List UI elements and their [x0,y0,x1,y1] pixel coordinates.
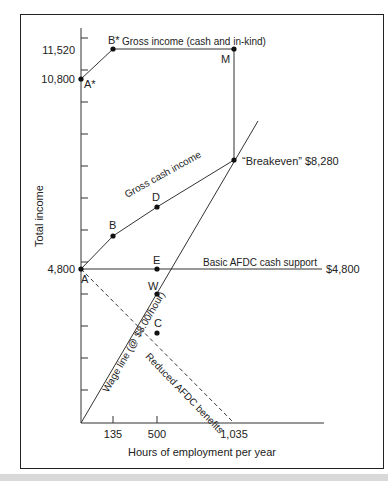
wage-line-label: Wage line (@ $8.00/hour) [100,290,167,394]
label-b: B [109,219,116,231]
y-ticks [81,38,88,390]
point-a [78,266,83,271]
label-m: M [221,53,230,65]
label-c: C [154,317,162,329]
x-tick-1035: 1,035 [220,428,248,440]
gross-income-label: Gross income (cash and in-kind) [122,36,266,47]
x-tick-135: 135 [104,428,122,440]
income-chart: 11,520 10,800 4,800 135 500 1,035 Hours … [0,0,388,481]
point-b [110,233,115,238]
y-tick-10800: 10,800 [41,73,75,85]
point-breakeven [231,157,236,162]
label-b-star: B* [108,34,120,46]
label-a-star: A* [84,78,96,90]
point-a-star [78,76,83,81]
x-axis-title: Hours of employment per year [128,446,276,458]
point-d [154,204,159,209]
point-m [231,46,236,51]
gross-cash-income-label: Gross cash income [123,148,204,199]
point-e [154,266,159,271]
x-ticks [113,416,157,423]
label-a: A [81,273,89,285]
label-e: E [153,254,160,266]
y-tick-4800: 4,800 [47,263,75,275]
point-c [154,330,159,335]
y-axis-title: Total income [33,185,45,247]
label-d: D [152,191,160,203]
breakeven-label: “Breakeven” $8,280 [242,155,339,167]
point-b-star [110,46,115,51]
x-tick-500: 500 [148,428,166,440]
afdc-value-label: $4,800 [326,263,360,275]
afdc-support-label: Basic AFDC cash support [203,257,317,268]
y-tick-11520: 11,520 [42,44,75,56]
gross-income-line [81,49,234,160]
